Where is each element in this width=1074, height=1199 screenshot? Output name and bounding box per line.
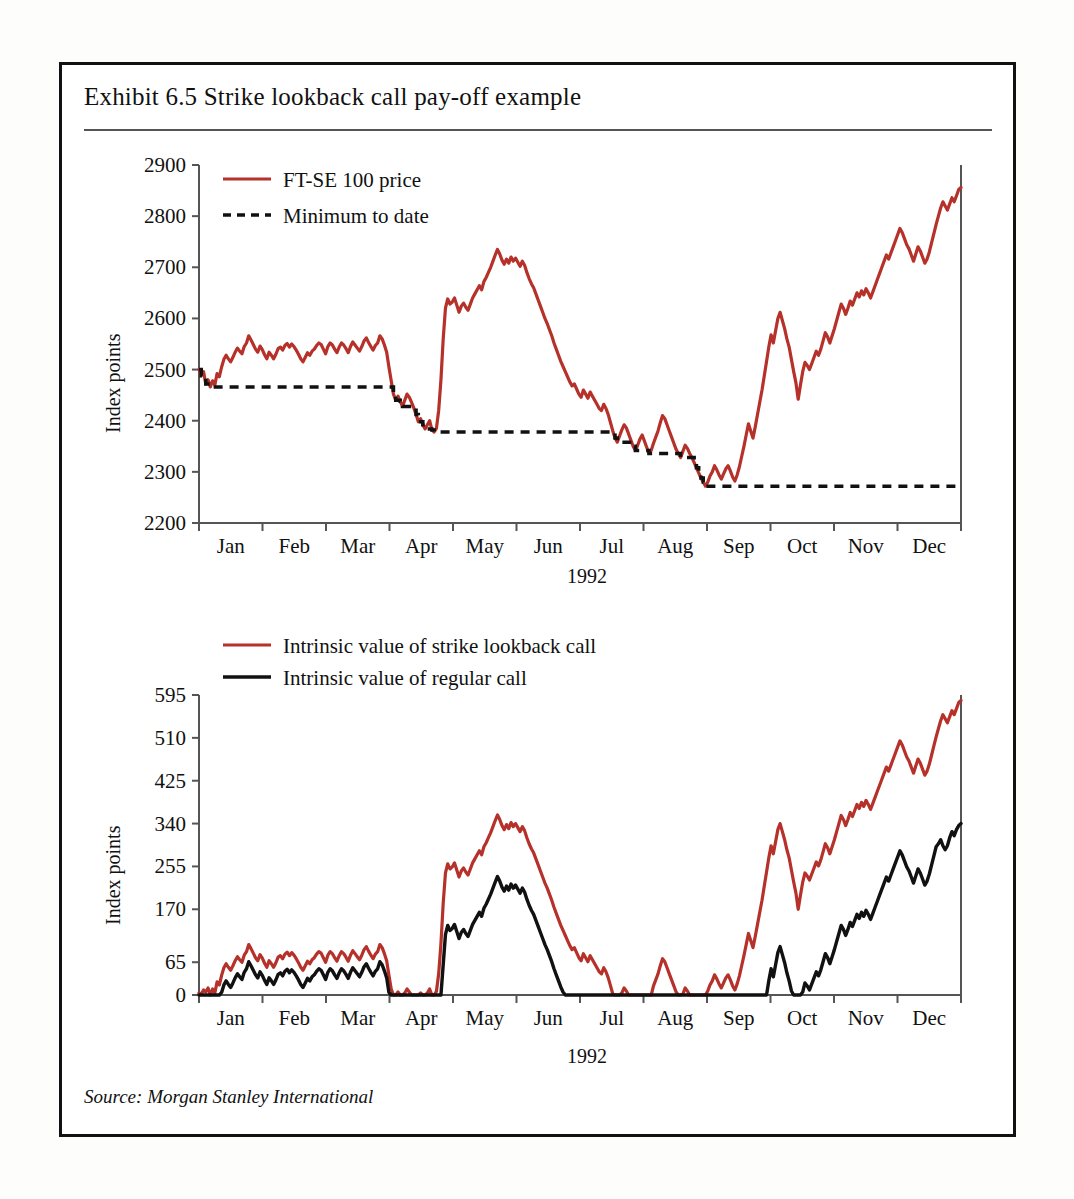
svg-text:255: 255 (155, 854, 187, 878)
svg-text:Sep: Sep (723, 534, 755, 558)
svg-text:2300: 2300 (144, 460, 186, 484)
chart2-plot-area: 065170255340425510595JanFebMarAprMayJunJ… (62, 635, 1013, 1085)
svg-text:2200: 2200 (144, 511, 186, 535)
chart2-y-axis-label: Index points (102, 826, 125, 925)
svg-text:2400: 2400 (144, 409, 186, 433)
chart1-y-axis-label: Index points (102, 334, 125, 433)
svg-text:Aug: Aug (657, 534, 694, 558)
svg-text:Intrinsic value of regular cal: Intrinsic value of regular call (283, 666, 527, 690)
svg-text:2700: 2700 (144, 255, 186, 279)
svg-text:Oct: Oct (787, 1006, 817, 1030)
svg-text:Jan: Jan (217, 1006, 245, 1030)
chart1-plot-area: 22002300240025002600270028002900JanFebMa… (62, 143, 1013, 613)
chart-ftse-price: Index points 1992 2200230024002500260027… (62, 143, 1013, 613)
svg-text:595: 595 (155, 683, 187, 707)
svg-text:Nov: Nov (848, 534, 885, 558)
svg-text:Mar: Mar (340, 534, 375, 558)
svg-text:May: May (466, 534, 505, 558)
svg-text:Nov: Nov (848, 1006, 885, 1030)
svg-text:Sep: Sep (723, 1006, 755, 1030)
svg-text:Dec: Dec (912, 1006, 946, 1030)
svg-text:170: 170 (155, 897, 187, 921)
svg-text:Feb: Feb (279, 1006, 311, 1030)
svg-text:May: May (466, 1006, 505, 1030)
svg-text:0: 0 (176, 983, 187, 1007)
svg-text:340: 340 (155, 812, 187, 836)
svg-text:Apr: Apr (405, 534, 438, 558)
source-note: Source: Morgan Stanley International (84, 1086, 373, 1108)
svg-text:Jan: Jan (217, 534, 245, 558)
svg-text:2900: 2900 (144, 153, 186, 177)
svg-text:2800: 2800 (144, 204, 186, 228)
svg-text:Jun: Jun (534, 1006, 564, 1030)
exhibit-container: Exhibit 6.5 Strike lookback call pay-off… (59, 62, 1016, 1137)
svg-text:65: 65 (165, 950, 186, 974)
page-background: Exhibit 6.5 Strike lookback call pay-off… (0, 0, 1074, 1199)
svg-text:2600: 2600 (144, 306, 186, 330)
svg-text:Dec: Dec (912, 534, 946, 558)
svg-text:Intrinsic value of strike look: Intrinsic value of strike lookback call (283, 635, 596, 658)
svg-text:Oct: Oct (787, 534, 817, 558)
svg-text:425: 425 (155, 769, 187, 793)
svg-text:Aug: Aug (657, 1006, 694, 1030)
chart1-x-axis-label: 1992 (567, 565, 607, 588)
svg-text:Feb: Feb (279, 534, 311, 558)
svg-text:Jul: Jul (599, 534, 624, 558)
svg-text:2500: 2500 (144, 358, 186, 382)
svg-text:Mar: Mar (340, 1006, 375, 1030)
chart-intrinsic-value: Index points 1992 065170255340425510595J… (62, 635, 1013, 1085)
svg-text:Minimum to date: Minimum to date (283, 204, 429, 228)
svg-text:510: 510 (155, 726, 187, 750)
svg-text:Jun: Jun (534, 534, 564, 558)
exhibit-title: Exhibit 6.5 Strike lookback call pay-off… (84, 83, 581, 111)
svg-text:Jul: Jul (599, 1006, 624, 1030)
chart2-x-axis-label: 1992 (567, 1045, 607, 1068)
svg-text:FT-SE 100 price: FT-SE 100 price (283, 168, 421, 192)
title-divider (84, 129, 992, 131)
svg-text:Apr: Apr (405, 1006, 438, 1030)
